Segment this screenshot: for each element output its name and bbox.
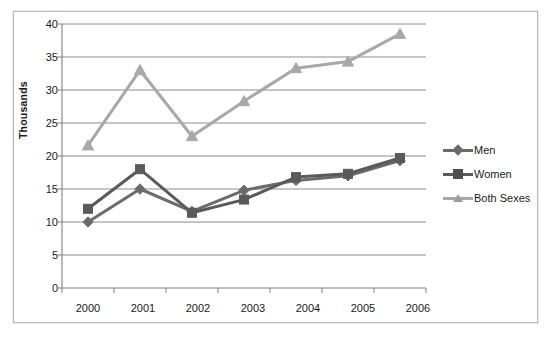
series-layer [82,28,405,227]
legend-swatch-both-sexes [443,192,473,204]
legend-label-both-sexes: Both Sexes [473,192,530,204]
series-men [83,155,405,227]
legend-item-both-sexes[interactable]: Both Sexes [443,186,549,210]
legend-item-women[interactable]: Women [443,162,549,186]
chart-legend: Men Women Both Sexes [443,138,549,210]
square-marker-icon [292,173,301,182]
square-marker-icon [344,169,353,178]
gridlines [62,24,426,288]
legend-swatch-men [443,144,473,156]
square-marker-icon [136,165,145,174]
series-both-sexes [82,28,405,150]
square-marker-icon [396,153,405,162]
square-marker-icon [240,195,249,204]
legend-item-men[interactable]: Men [443,138,549,162]
triangle-marker-icon [453,194,463,202]
axis-ticks [57,24,426,293]
legend-swatch-women [443,168,473,180]
triangle-marker-icon [394,28,405,38]
square-marker-icon [453,169,463,179]
square-marker-icon [188,208,197,217]
legend-label-men: Men [473,144,495,156]
diamond-marker-icon [452,144,463,155]
chart-figure: Thousands 40 35 30 25 20 15 10 5 0 2000 … [0,0,555,342]
diamond-marker-icon [239,185,249,195]
triangle-marker-icon [134,65,145,75]
legend-label-women: Women [473,168,512,180]
square-marker-icon [84,204,93,213]
